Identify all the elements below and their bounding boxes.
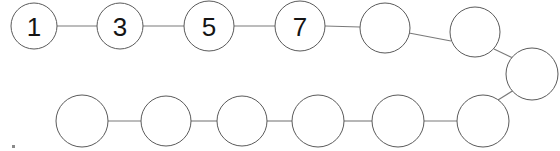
node-chain-diagram: 1357 (0, 0, 560, 151)
node-circle[interactable] (56, 95, 108, 147)
chain-node[interactable] (360, 3, 410, 53)
node-label: 5 (202, 12, 216, 42)
nodes-layer: 1357 (11, 1, 558, 147)
node-circle[interactable] (372, 95, 424, 147)
chain-link (498, 90, 514, 100)
node-circle[interactable] (457, 95, 509, 147)
chain-node[interactable]: 5 (184, 1, 234, 51)
node-label: 1 (27, 12, 41, 42)
node-circle[interactable] (450, 7, 500, 57)
artifacts-layer (12, 145, 15, 148)
chain-link (409, 33, 451, 41)
chain-node[interactable]: 3 (97, 3, 143, 49)
node-circle[interactable] (292, 95, 344, 147)
chain-node[interactable] (506, 48, 558, 100)
chain-node[interactable] (56, 95, 108, 147)
node-circle[interactable] (506, 48, 558, 100)
node-label: 3 (113, 12, 127, 42)
chain-node[interactable]: 7 (275, 1, 325, 51)
chain-link (494, 49, 513, 58)
node-label: 7 (293, 12, 307, 42)
scan-speck (12, 145, 15, 148)
chain-node[interactable] (217, 96, 267, 146)
node-circle[interactable] (141, 96, 191, 146)
chain-link (325, 26, 360, 27)
chain-node[interactable] (372, 95, 424, 147)
diagram-canvas: 1357 (0, 0, 560, 151)
chain-node[interactable] (457, 95, 509, 147)
chain-node[interactable]: 1 (11, 3, 57, 49)
chain-node[interactable] (450, 7, 500, 57)
chain-node[interactable] (141, 96, 191, 146)
chain-node[interactable] (292, 95, 344, 147)
node-circle[interactable] (217, 96, 267, 146)
node-circle[interactable] (360, 3, 410, 53)
